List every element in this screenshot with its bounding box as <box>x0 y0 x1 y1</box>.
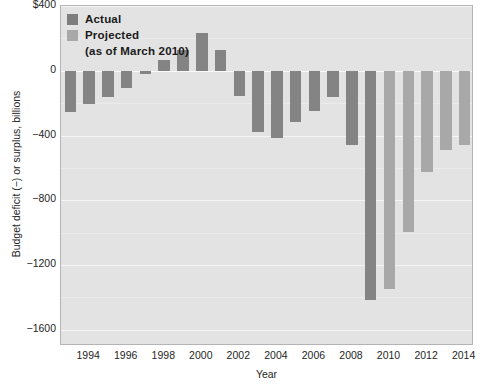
bar-1997-actual <box>140 71 152 75</box>
bar-1998-actual <box>158 60 170 71</box>
y-tick-label: −1600 <box>4 322 56 334</box>
y-axis-title: Budget deficit (−) or surplus, billions <box>10 74 22 274</box>
plot-area: Actual Projected (as of March 2010) <box>60 5 473 345</box>
bar-2003-actual <box>252 71 264 132</box>
bar-2007-actual <box>327 71 339 97</box>
bar-2013-projected <box>440 71 452 150</box>
legend-label-actual: Actual <box>85 11 121 27</box>
legend-swatch-actual-icon <box>67 14 78 25</box>
gridline-minor <box>61 233 472 234</box>
x-axis-title: Year <box>60 368 473 380</box>
bar-2006-actual <box>309 71 321 111</box>
y-tick-label: $400 <box>4 0 56 10</box>
legend-item-projected: Projected <box>67 27 297 43</box>
bar-2014-projected <box>459 71 471 145</box>
bar-1996-actual <box>121 71 133 88</box>
legend-swatch-projected-icon <box>67 30 78 41</box>
bar-2008-actual <box>346 71 358 145</box>
gridline <box>61 330 472 331</box>
legend-label-projected: Projected <box>85 27 139 43</box>
y-axis-tick-labels: $4000−400−800−1200−1600 <box>0 0 56 388</box>
gridline <box>61 6 472 7</box>
bar-2011-projected <box>403 71 415 232</box>
gridline <box>61 265 472 266</box>
bar-2005-actual <box>290 71 302 123</box>
bar-2004-actual <box>271 71 283 138</box>
bar-1995-actual <box>102 71 114 98</box>
bar-2009-actual <box>365 71 377 300</box>
budget-deficit-chart: $4000−400−800−1200−1600 Budget deficit (… <box>0 0 483 388</box>
y-tick-label: 0 <box>4 63 56 75</box>
gridline-minor <box>61 297 472 298</box>
bar-1994-actual <box>83 71 95 104</box>
legend-sublabel: (as of March 2010) <box>85 43 297 59</box>
bar-2012-projected <box>421 71 433 173</box>
x-tick-label: 2014 <box>442 349 483 361</box>
chart-legend: Actual Projected (as of March 2010) <box>67 11 297 59</box>
bar-1993-actual <box>65 71 77 112</box>
legend-item-actual: Actual <box>67 11 297 27</box>
bar-2002-actual <box>234 71 246 97</box>
bar-2010-projected <box>384 71 396 290</box>
